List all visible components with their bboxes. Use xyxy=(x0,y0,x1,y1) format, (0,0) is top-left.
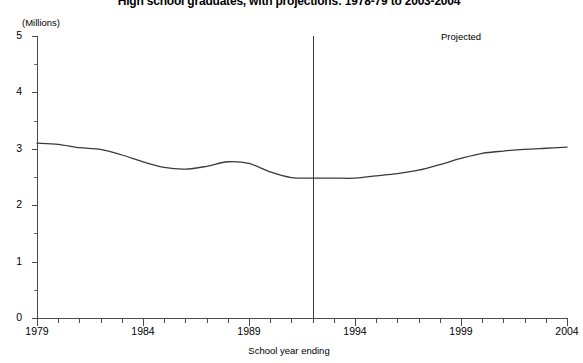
y-tick-label: 5 xyxy=(0,29,22,41)
axis-ticks xyxy=(32,37,568,327)
x-tick-label: 1994 xyxy=(330,325,380,337)
axis-lines xyxy=(37,36,567,319)
x-tick-label: 1999 xyxy=(436,325,486,337)
y-tick-label: 2 xyxy=(0,198,22,210)
series-line-0 xyxy=(37,143,567,178)
y-tick-label: 4 xyxy=(0,85,22,97)
x-tick-label: 1979 xyxy=(12,325,62,337)
y-tick-label: 3 xyxy=(0,142,22,154)
y-tick-label: 0 xyxy=(0,311,22,323)
y-tick-label: 1 xyxy=(0,255,22,267)
x-tick-label: 1989 xyxy=(224,325,274,337)
x-tick-label: 2004 xyxy=(542,325,583,337)
x-tick-label: 1984 xyxy=(118,325,168,337)
data-series-lines xyxy=(37,143,567,178)
